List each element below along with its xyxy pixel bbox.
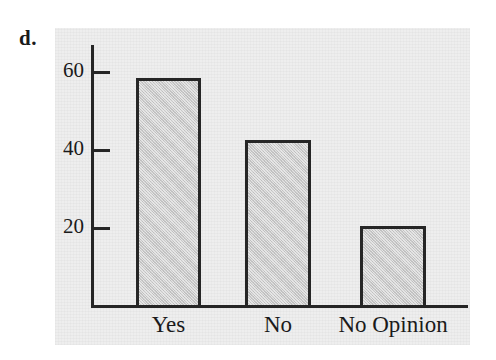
part-label: d. (19, 28, 37, 49)
category-label-no-opinion: No Opinion (313, 312, 473, 337)
bar-yes (136, 78, 201, 308)
y-tick-label-40: 40 (44, 138, 84, 159)
y-tick-label-20: 20 (44, 216, 84, 237)
y-tick-label-wrap-20: 20 (38, 216, 84, 238)
bar-no-opinion (360, 226, 426, 308)
y-tick-label-wrap-60: 60 (38, 60, 84, 82)
y-tick-60 (94, 71, 110, 74)
y-tick-20 (94, 227, 110, 230)
bar-no (245, 140, 311, 308)
y-tick-40 (94, 149, 110, 152)
y-axis-line (91, 45, 94, 308)
y-tick-label-60: 60 (44, 60, 84, 81)
figure-canvas: d. 204060 YesNoNo Opinion (0, 0, 496, 360)
y-tick-label-wrap-40: 40 (38, 138, 84, 160)
